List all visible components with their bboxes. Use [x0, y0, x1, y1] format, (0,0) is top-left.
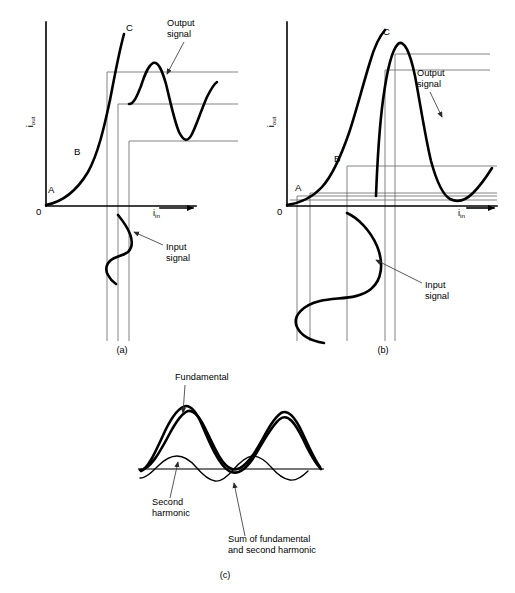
panel-a-transfer-curve: [46, 34, 124, 205]
panel-a-output-annotation-line1: Output: [167, 18, 195, 28]
panel-b-x-axis-label: iin: [458, 208, 465, 219]
panel-c-sum-leader: [234, 483, 245, 536]
panel-b-output-leader: [430, 92, 442, 117]
panel-c-fundamental-annotation: Fundamental: [175, 372, 229, 382]
panel-a-origin-label: 0: [36, 206, 41, 217]
panel-a-x-axis-label: iin: [153, 208, 160, 219]
panel-c-sum-annotation-line2: and second harmonic: [228, 545, 316, 555]
panel-c-second-harmonic-leader: [170, 462, 178, 498]
panel-b-point-b-label: B: [334, 153, 340, 164]
panel-b-point-a-label: A: [295, 182, 302, 193]
panel-a-y-axis-label: iout: [25, 116, 36, 127]
panel-b-point-c-label: C: [383, 26, 390, 37]
panel-c-fundamental-waveform: [140, 411, 320, 470]
panel-b-input-annotation-line2: signal: [425, 291, 449, 301]
panel-b-caption: (b): [377, 345, 388, 355]
panel-c-sum-annotation-line1: Sum of fundamental: [228, 534, 310, 544]
panel-b-output-annotation-line2: signal: [417, 79, 441, 89]
distortion-figure-svg: iout iin 0 A B C Output signal Input sig…: [0, 0, 515, 593]
panel-c: Fundamental Second harmonic Sum of funda…: [138, 372, 324, 580]
panel-b-projection-lines: [290, 54, 497, 200]
panel-a-caption: (a): [116, 345, 127, 355]
panel-b: iout iin 0 A B C Output signal Input sig…: [266, 22, 497, 355]
panel-a-input-waveform: [106, 215, 131, 284]
panel-c-second-harmonic-annotation-line2: harmonic: [152, 508, 190, 518]
panel-a-output-annotation-line2: signal: [167, 29, 191, 39]
panel-b-transfer-curve: [287, 30, 385, 205]
panel-b-output-waveform: [376, 43, 492, 201]
panel-a-input-leader: [134, 232, 163, 245]
panel-a-point-b-label: B: [74, 146, 80, 157]
panel-a-input-annotation-line1: Input: [166, 242, 187, 252]
panel-a-input-annotation-line2: signal: [166, 253, 190, 263]
panel-a: iout iin 0 A B C Output signal Input sig…: [25, 18, 238, 355]
panel-b-input-waveform: [296, 213, 381, 343]
panel-b-y-axis-label: iout: [266, 116, 277, 127]
figure-root: iout iin 0 A B C Output signal Input sig…: [0, 0, 515, 593]
panel-a-point-c-label: C: [126, 22, 133, 33]
panel-c-fundamental-leader: [183, 385, 185, 413]
panel-b-output-annotation-line1: Output: [417, 68, 445, 78]
panel-b-input-annotation-line1: Input: [425, 280, 446, 290]
panel-c-caption: (c): [220, 570, 231, 580]
panel-c-second-harmonic-annotation-line1: Second: [152, 497, 183, 507]
panel-a-output-waveform: [129, 63, 217, 140]
panel-a-output-leader: [167, 42, 184, 74]
panel-a-point-a-label: A: [48, 184, 55, 195]
panel-b-origin-label: 0: [277, 206, 282, 217]
panel-b-input-leader: [376, 260, 422, 283]
